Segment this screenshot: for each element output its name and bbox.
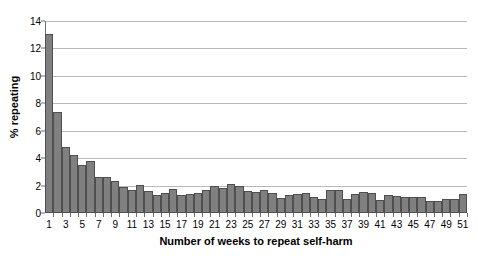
x-axis-tick-label: 33 (308, 219, 319, 230)
bar (202, 190, 210, 213)
y-axis-tick-label: 8 (15, 98, 41, 109)
x-axis-tick-label: 35 (325, 219, 336, 230)
y-axis-tick-mark (41, 21, 45, 22)
bar (95, 177, 103, 213)
bar (177, 195, 185, 214)
bar (359, 192, 367, 213)
x-axis-tick-mark (161, 213, 162, 217)
x-axis-tick-label: 23 (226, 219, 237, 230)
x-axis-tick-mark (384, 213, 385, 217)
x-axis-tick-label: 13 (143, 219, 154, 230)
bar (401, 197, 409, 213)
y-axis-tick-label: 12 (15, 43, 41, 54)
bar (351, 194, 359, 213)
x-axis-tick-mark (268, 213, 269, 217)
x-axis-tick-label: 3 (63, 219, 69, 230)
y-axis-tick-label: 2 (15, 180, 41, 191)
bar (227, 184, 235, 213)
x-axis-tick-mark (128, 213, 129, 217)
y-axis-tick-mark (41, 213, 45, 214)
y-axis-tick-mark (41, 75, 45, 76)
x-axis-tick-label: 39 (358, 219, 369, 230)
y-axis-tick-mark (41, 185, 45, 186)
x-axis-tick-mark (219, 213, 220, 217)
bar (409, 197, 417, 213)
x-axis-tick-mark (442, 213, 443, 217)
bars-group (45, 21, 467, 213)
bar (78, 165, 86, 213)
x-axis-tick-mark (119, 213, 120, 217)
bar (376, 200, 384, 213)
x-axis-tick-mark (359, 213, 360, 217)
x-axis-tick-label: 49 (441, 219, 452, 230)
y-axis-tick-mark (41, 48, 45, 49)
x-axis-tick-mark (368, 213, 369, 217)
x-axis-tick-mark (277, 213, 278, 217)
x-axis-tick-mark (293, 213, 294, 217)
bar (417, 197, 425, 213)
x-axis-tick-label: 21 (209, 219, 220, 230)
x-axis-tick-label: 1 (46, 219, 52, 230)
y-axis-tick-label: 4 (15, 153, 41, 164)
bar (219, 188, 227, 213)
bar (368, 193, 376, 213)
x-axis-tick-mark (376, 213, 377, 217)
x-axis-tick-mark (62, 213, 63, 217)
x-axis-tick-label: 27 (259, 219, 270, 230)
x-axis-tick-label: 31 (292, 219, 303, 230)
bar (293, 194, 301, 213)
x-axis-tick-mark (111, 213, 112, 217)
bar (128, 190, 136, 213)
x-axis-tick-label: 45 (408, 219, 419, 230)
x-axis-tick-mark (401, 213, 402, 217)
x-axis-tick-mark (177, 213, 178, 217)
bar (235, 186, 243, 213)
x-axis-tick-mark (153, 213, 154, 217)
bar (153, 195, 161, 213)
x-axis-tick-mark (409, 213, 410, 217)
y-axis-tick-mark (41, 130, 45, 131)
bar (285, 195, 293, 214)
bar (252, 192, 260, 213)
x-axis-tick-label: 37 (341, 219, 352, 230)
bar-chart-figure: % repeating Number of weeks to repeat se… (0, 0, 478, 263)
bar (450, 199, 458, 213)
x-axis-tick-mark (426, 213, 427, 217)
x-axis-tick-mark (210, 213, 211, 217)
x-axis-tick-mark (459, 213, 460, 217)
bar (277, 198, 285, 213)
x-axis-tick-mark (310, 213, 311, 217)
bar (169, 189, 177, 213)
bar (326, 190, 334, 213)
x-axis-tick-mark (335, 213, 336, 217)
x-axis-tick-mark (202, 213, 203, 217)
x-axis-tick-mark (136, 213, 137, 217)
x-axis-tick-label: 41 (375, 219, 386, 230)
x-axis-tick-mark (252, 213, 253, 217)
x-axis-tick-label: 15 (159, 219, 170, 230)
x-axis-tick-mark (227, 213, 228, 217)
bar (384, 195, 392, 213)
y-axis-tick-label: 0 (15, 208, 41, 219)
bar (442, 199, 450, 213)
bar (45, 34, 53, 213)
x-axis-tick-mark (450, 213, 451, 217)
y-axis-tick-label: 10 (15, 70, 41, 81)
x-axis-tick-label: 7 (96, 219, 102, 230)
x-axis-tick-mark (95, 213, 96, 217)
x-axis-tick-label: 5 (79, 219, 85, 230)
bar (103, 177, 111, 213)
x-axis-tick-mark (186, 213, 187, 217)
x-axis-tick-label: 19 (193, 219, 204, 230)
x-axis-tick-mark (351, 213, 352, 217)
bar (161, 193, 169, 213)
bar (186, 194, 194, 213)
bar (86, 161, 94, 213)
x-axis-tick-mark (434, 213, 435, 217)
bar (210, 186, 218, 213)
bar (260, 190, 268, 213)
x-axis-tick-label: 11 (127, 219, 137, 230)
x-axis-tick-mark (326, 213, 327, 217)
x-axis-tick-mark (302, 213, 303, 217)
x-axis-tick-label: 51 (457, 219, 468, 230)
